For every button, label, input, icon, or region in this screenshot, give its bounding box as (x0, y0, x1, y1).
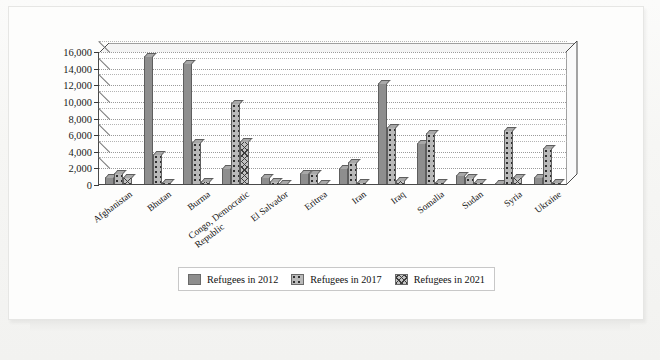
gridline-back (99, 41, 567, 42)
bar (396, 180, 405, 184)
bar (339, 168, 348, 184)
bar (318, 183, 327, 185)
bar-group (489, 51, 528, 184)
bar-group (333, 51, 372, 184)
x-axis-label: Ukraine (533, 189, 563, 216)
bar (552, 182, 561, 184)
bar (279, 183, 288, 185)
x-axis-label: Iran (350, 189, 368, 206)
y-axis-tick-label: 4,000 (68, 146, 92, 157)
bar (474, 182, 483, 184)
y-axis-tick-label: 16,000 (63, 47, 92, 58)
bar (123, 177, 132, 184)
y-axis-tick-label: 14,000 (63, 63, 92, 74)
y-axis-tick (94, 185, 99, 186)
bar-group (216, 51, 255, 184)
x-axis-label: Bhutan (146, 189, 174, 214)
crosshatch-gray-swatch (395, 274, 408, 285)
x-axis-label: Iraq (389, 189, 407, 206)
bar (192, 142, 201, 184)
bar-group (450, 51, 489, 184)
bar (513, 177, 522, 184)
bar-group (138, 51, 177, 184)
plot-right-face (566, 41, 578, 186)
bar (495, 183, 504, 185)
legend-label: Refugees in 2017 (310, 274, 381, 285)
legend-label: Refugees in 2021 (414, 274, 485, 285)
solid-gray-swatch (188, 274, 201, 285)
bar (456, 175, 465, 184)
bar (105, 177, 114, 184)
y-axis-tick-label: 10,000 (63, 96, 92, 107)
bar-chart: 02,0004,0006,0008,00010,00012,00014,0001… (0, 0, 660, 360)
y-axis-tick-label: 8,000 (68, 113, 92, 124)
bar (240, 141, 249, 184)
bar (231, 103, 240, 184)
y-axis-tick-label: 12,000 (63, 80, 92, 91)
x-axis-label: Somalia (416, 189, 447, 216)
bar (348, 162, 357, 184)
dotted-gray-swatch (291, 274, 304, 285)
bar (309, 173, 318, 184)
bar (261, 177, 270, 184)
chart-legend: Refugees in 2012Refugees in 2017Refugees… (178, 267, 495, 291)
bar (357, 182, 366, 184)
x-axis-label: Afghanistan (92, 189, 135, 225)
y-axis-tick-label: 6,000 (68, 130, 92, 141)
y-axis-tick-label: 0 (87, 180, 92, 191)
bar (504, 130, 513, 184)
bar (153, 154, 162, 184)
bar (114, 173, 123, 184)
bar (417, 143, 426, 184)
bar (162, 182, 171, 184)
bar (387, 127, 396, 184)
bar (300, 173, 309, 184)
bar-group (528, 51, 567, 184)
bar (435, 182, 444, 184)
y-axis-tick-label: 2,000 (68, 163, 92, 174)
bar (201, 181, 210, 184)
bar-group (294, 51, 333, 184)
bar (378, 83, 387, 184)
bar (534, 177, 543, 184)
legend-label: Refugees in 2012 (207, 274, 278, 285)
bar-group (255, 51, 294, 184)
x-axis-label: Sudan (461, 189, 486, 212)
plot-area: 02,0004,0006,0008,00010,00012,00014,0001… (98, 52, 566, 185)
x-axis-label: Burma (186, 189, 213, 213)
legend-item: Refugees in 2021 (395, 274, 485, 285)
bar (543, 148, 552, 184)
x-axis-label: Syria (503, 189, 525, 209)
bar (183, 63, 192, 184)
bar-group (372, 51, 411, 184)
bar (222, 168, 231, 184)
bar-group (411, 51, 450, 184)
bar-group (99, 51, 138, 184)
x-axis-label: Eritrea (303, 189, 330, 213)
plot-right-slab (566, 41, 577, 185)
legend-item: Refugees in 2012 (188, 274, 278, 285)
bar-group (177, 51, 216, 184)
bar (144, 56, 153, 184)
bar (426, 133, 435, 184)
legend-item: Refugees in 2017 (291, 274, 381, 285)
